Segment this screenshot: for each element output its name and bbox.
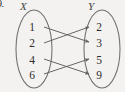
diagram-canvas xyxy=(0,0,125,92)
set-x-label: X xyxy=(20,1,27,12)
codomain-element: 9 xyxy=(94,70,104,82)
domain-element: 2 xyxy=(27,38,37,50)
domain-element: 6 xyxy=(27,70,37,82)
codomain-element: 2 xyxy=(94,22,104,34)
domain-element: 1 xyxy=(27,22,37,34)
codomain-element: 3 xyxy=(94,38,104,50)
codomain-element: 5 xyxy=(94,55,104,67)
set-y-label: Y xyxy=(88,1,94,12)
domain-element: 4 xyxy=(27,55,37,67)
mapping-diagram-figure: 9. X Y 1 2 4 6 2 3 5 9 xyxy=(0,0,125,92)
